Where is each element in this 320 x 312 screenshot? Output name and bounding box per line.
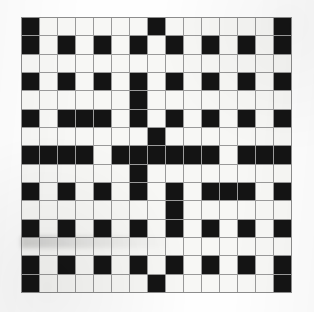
grid-cell-open[interactable] xyxy=(112,201,129,218)
grid-cell-open[interactable] xyxy=(184,110,201,127)
grid-cell-open[interactable] xyxy=(184,220,201,237)
grid-cell-open[interactable] xyxy=(94,91,111,108)
grid-cell-open[interactable] xyxy=(58,91,75,108)
grid-cell-open[interactable] xyxy=(256,220,273,237)
grid-cell-open[interactable] xyxy=(112,220,129,237)
grid-cell-open[interactable] xyxy=(22,238,39,255)
grid-cell-open[interactable] xyxy=(256,36,273,53)
grid-cell-open[interactable] xyxy=(202,18,219,35)
grid-cell-open[interactable] xyxy=(94,18,111,35)
grid-cell-open[interactable] xyxy=(40,91,57,108)
grid-cell-open[interactable] xyxy=(112,110,129,127)
grid-cell-open[interactable] xyxy=(22,91,39,108)
grid-cell-open[interactable] xyxy=(40,220,57,237)
grid-cell-open[interactable] xyxy=(40,73,57,90)
grid-cell-open[interactable] xyxy=(94,55,111,72)
grid-cell-open[interactable] xyxy=(76,73,93,90)
grid-cell-open[interactable] xyxy=(256,73,273,90)
grid-cell-open[interactable] xyxy=(76,36,93,53)
grid-cell-open[interactable] xyxy=(220,18,237,35)
grid-cell-open[interactable] xyxy=(202,275,219,292)
grid-cell-open[interactable] xyxy=(238,201,255,218)
grid-cell-open[interactable] xyxy=(148,183,165,200)
grid-cell-open[interactable] xyxy=(40,275,57,292)
grid-cell-open[interactable] xyxy=(40,201,57,218)
grid-cell-open[interactable] xyxy=(184,55,201,72)
grid-cell-open[interactable] xyxy=(184,256,201,273)
grid-cell-open[interactable] xyxy=(58,128,75,145)
grid-cell-open[interactable] xyxy=(184,238,201,255)
grid-cell-open[interactable] xyxy=(40,128,57,145)
grid-cell-open[interactable] xyxy=(58,55,75,72)
grid-cell-open[interactable] xyxy=(184,275,201,292)
grid-cell-open[interactable] xyxy=(40,183,57,200)
grid-cell-open[interactable] xyxy=(76,256,93,273)
grid-cell-open[interactable] xyxy=(238,91,255,108)
grid-cell-open[interactable] xyxy=(76,128,93,145)
grid-cell-open[interactable] xyxy=(76,55,93,72)
grid-cell-open[interactable] xyxy=(202,238,219,255)
grid-cell-open[interactable] xyxy=(130,18,147,35)
grid-cell-open[interactable] xyxy=(76,18,93,35)
grid-cell-open[interactable] xyxy=(256,55,273,72)
grid-cell-open[interactable] xyxy=(238,55,255,72)
grid-cell-open[interactable] xyxy=(112,128,129,145)
grid-cell-open[interactable] xyxy=(238,275,255,292)
grid-cell-open[interactable] xyxy=(40,55,57,72)
grid-cell-open[interactable] xyxy=(220,256,237,273)
grid-cell-open[interactable] xyxy=(58,165,75,182)
grid-cell-open[interactable] xyxy=(184,18,201,35)
grid-cell-open[interactable] xyxy=(112,183,129,200)
grid-cell-open[interactable] xyxy=(220,128,237,145)
grid-cell-open[interactable] xyxy=(112,55,129,72)
grid-cell-open[interactable] xyxy=(94,201,111,218)
grid-cell-open[interactable] xyxy=(148,238,165,255)
grid-cell-open[interactable] xyxy=(112,165,129,182)
grid-cell-open[interactable] xyxy=(256,91,273,108)
grid-cell-open[interactable] xyxy=(58,238,75,255)
grid-cell-open[interactable] xyxy=(130,55,147,72)
grid-cell-open[interactable] xyxy=(184,183,201,200)
grid-cell-open[interactable] xyxy=(58,201,75,218)
grid-cell-open[interactable] xyxy=(220,36,237,53)
grid-cell-open[interactable] xyxy=(94,128,111,145)
grid-cell-open[interactable] xyxy=(184,201,201,218)
grid-cell-open[interactable] xyxy=(166,275,183,292)
grid-cell-open[interactable] xyxy=(220,55,237,72)
grid-cell-open[interactable] xyxy=(148,165,165,182)
grid-cell-open[interactable] xyxy=(40,238,57,255)
grid-cell-open[interactable] xyxy=(202,55,219,72)
grid-cell-open[interactable] xyxy=(148,55,165,72)
grid-cell-open[interactable] xyxy=(76,238,93,255)
grid-cell-open[interactable] xyxy=(274,201,291,218)
grid-cell-open[interactable] xyxy=(256,201,273,218)
grid-cell-open[interactable] xyxy=(112,275,129,292)
grid-cell-open[interactable] xyxy=(40,36,57,53)
grid-cell-open[interactable] xyxy=(274,91,291,108)
grid-cell-open[interactable] xyxy=(202,128,219,145)
grid-cell-open[interactable] xyxy=(76,91,93,108)
grid-cell-open[interactable] xyxy=(130,201,147,218)
grid-cell-open[interactable] xyxy=(220,201,237,218)
grid-cell-open[interactable] xyxy=(94,165,111,182)
grid-cell-open[interactable] xyxy=(256,238,273,255)
grid-cell-open[interactable] xyxy=(148,36,165,53)
grid-cell-open[interactable] xyxy=(22,128,39,145)
grid-cell-open[interactable] xyxy=(22,55,39,72)
grid-cell-open[interactable] xyxy=(256,128,273,145)
grid-cell-open[interactable] xyxy=(40,110,57,127)
grid-cell-open[interactable] xyxy=(166,91,183,108)
grid-cell-open[interactable] xyxy=(274,55,291,72)
grid-cell-open[interactable] xyxy=(40,18,57,35)
grid-cell-open[interactable] xyxy=(40,256,57,273)
grid-cell-open[interactable] xyxy=(220,73,237,90)
grid-cell-open[interactable] xyxy=(112,238,129,255)
grid-cell-open[interactable] xyxy=(148,110,165,127)
grid-cell-open[interactable] xyxy=(220,110,237,127)
grid-cell-open[interactable] xyxy=(112,256,129,273)
grid-cell-open[interactable] xyxy=(256,256,273,273)
grid-cell-open[interactable] xyxy=(274,128,291,145)
grid-cell-open[interactable] xyxy=(22,201,39,218)
grid-cell-open[interactable] xyxy=(76,201,93,218)
grid-cell-open[interactable] xyxy=(76,183,93,200)
